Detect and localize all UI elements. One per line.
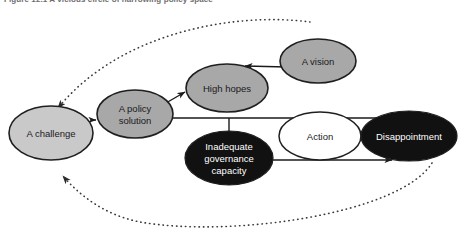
node-challenge[interactable]: A challenge [9,106,93,160]
vicious-circle-diagram: A challenge A policy solution High hopes… [0,0,465,238]
figure-container: Figure 12.1 A vicious circle of narrowin… [0,0,465,238]
node-challenge-label: A challenge [26,128,75,139]
node-vision[interactable]: A vision [280,39,356,83]
node-governance-capacity-label-line3: capacity [212,165,247,176]
node-policy-solution-label-line2: solution [119,115,152,126]
edge-policy-solution-to-high-hopes [166,92,185,103]
node-policy-solution-label-line1: A policy [119,103,152,114]
node-policy-solution[interactable]: A policy solution [97,90,173,138]
node-governance-capacity-label-line1: Inadequate [205,141,253,152]
node-action[interactable]: Action [279,112,361,160]
node-vision-label: A vision [302,56,335,67]
node-governance-capacity-label-line2: governance [204,153,254,164]
node-action-label: Action [307,131,333,142]
node-disappointment-label: Disappointment [376,131,442,142]
edge-vision-feedback-to-challenge [58,20,310,108]
node-high-hopes-label: High hopes [203,83,251,94]
node-layer: A challenge A policy solution High hopes… [9,39,457,185]
node-high-hopes[interactable]: High hopes [186,64,268,112]
node-disappointment[interactable]: Disappointment [361,111,457,161]
node-governance-capacity[interactable]: Inadequate governance capacity [185,131,273,185]
